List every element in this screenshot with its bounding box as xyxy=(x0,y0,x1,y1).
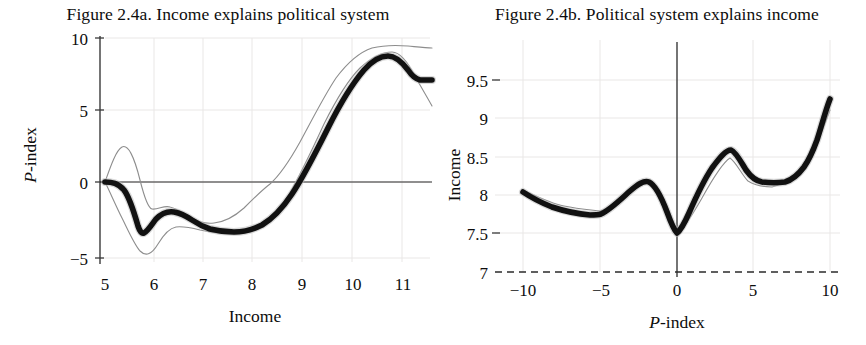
y-axis-title-2-4a: P-index xyxy=(20,127,40,184)
y-axis-title-2-4a-italic: P xyxy=(20,172,40,184)
x-tick-label-2-4b-0: −10 xyxy=(510,281,537,300)
figure-pair-container: Figure 2.4a. Income explains political s… xyxy=(0,0,866,345)
y-tick-label-2-4b-4: 7.5 xyxy=(467,225,488,244)
y-axis-title-2-4a-rest: -index xyxy=(20,127,40,172)
y-tick-label-2-4b-5: 7 xyxy=(480,264,489,283)
y-tick-label-2-4a-0: 10 xyxy=(71,30,88,49)
y-tick-label-2-4a-2: 0 xyxy=(80,174,89,193)
x-tick-label-2-4a-5: 10 xyxy=(345,275,362,294)
x-tick-label-2-4a-3: 8 xyxy=(248,275,257,294)
figure-panel-2-4a: Figure 2.4a. Income explains political s… xyxy=(0,0,440,345)
x-axis-title-2-4b-rest: -index xyxy=(660,312,705,332)
svg-text:P-index: P-index xyxy=(20,127,40,184)
y-tick-label-2-4b-1: 9 xyxy=(480,110,489,129)
x-tick-label-2-4b-2: 0 xyxy=(673,281,682,300)
y-tick-label-2-4b-3: 8 xyxy=(480,186,489,205)
y-tick-label-2-4a-3: −5 xyxy=(70,250,88,269)
x-tick-label-2-4a-6: 11 xyxy=(395,275,411,294)
gridlines-2-4b xyxy=(495,40,840,272)
figure-panel-2-4b: Figure 2.4b. Political system explains i… xyxy=(440,0,866,345)
x-tick-label-2-4a-4: 9 xyxy=(298,275,307,294)
y-tick-label-2-4b-2: 8.5 xyxy=(467,149,488,168)
x-tick-label-2-4a-0: 5 xyxy=(101,275,110,294)
x-tick-label-2-4b-4: 10 xyxy=(822,281,839,300)
x-tick-label-2-4a-2: 7 xyxy=(199,275,208,294)
figure-2-4a-plot: 10 5 0 −5 5 6 7 8 9 10 11 Income P-index xyxy=(0,0,440,345)
x-axis-title-2-4b: P-index xyxy=(648,312,705,332)
y-axis-title-2-4b-text: Income xyxy=(444,149,464,202)
x-tick-label-2-4b-3: 5 xyxy=(749,281,758,300)
figure-2-4b-plot: 9.5 9 8.5 8 7.5 7 −10 −5 0 5 10 P-index … xyxy=(440,0,866,345)
x-axis-title-2-4a: Income xyxy=(229,306,282,326)
y-tick-label-2-4a-1: 5 xyxy=(80,102,89,121)
y-axis-title-2-4b: Income xyxy=(444,149,464,202)
x-axis-title-2-4b-italic: P xyxy=(648,312,660,332)
x-tick-label-2-4b-1: −5 xyxy=(592,281,610,300)
y-tick-label-2-4b-0: 9.5 xyxy=(467,72,488,91)
x-tick-label-2-4a-1: 6 xyxy=(150,275,159,294)
